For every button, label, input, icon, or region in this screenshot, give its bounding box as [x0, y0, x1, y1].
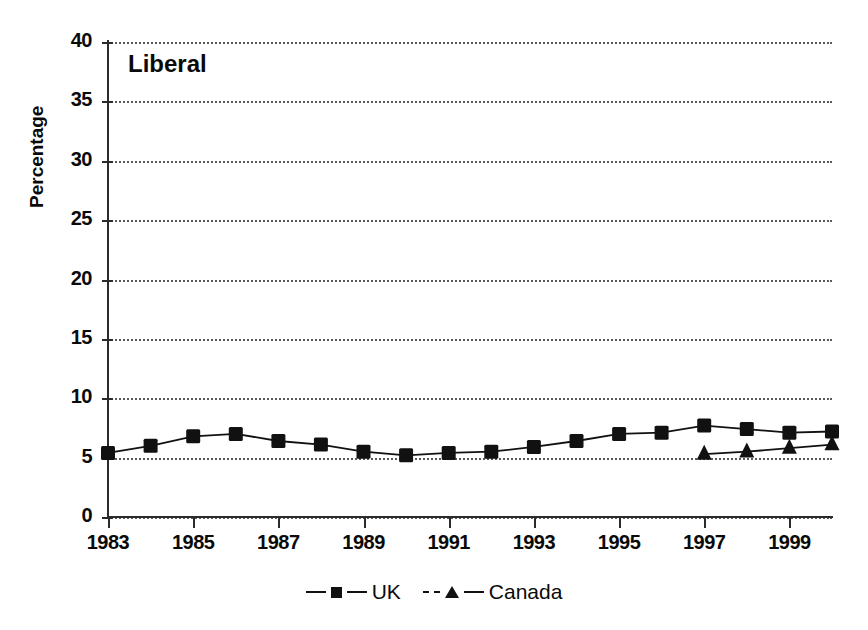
- legend-label-uk: UK: [372, 580, 401, 604]
- data-point-marker-triangle: [739, 442, 754, 457]
- data-point-marker-square: [271, 434, 285, 448]
- legend-entry-canada: Canada: [423, 580, 563, 604]
- legend-label-canada: Canada: [489, 580, 563, 604]
- data-point-marker-square: [357, 445, 371, 459]
- data-point-marker-square: [144, 439, 158, 453]
- data-point-marker-square: [484, 445, 498, 459]
- data-point-marker-square: [101, 446, 115, 460]
- series-layer: [0, 0, 868, 630]
- series-line-uk: [108, 426, 832, 456]
- data-point-marker-square: [186, 429, 200, 443]
- chart-legend: UK Canada: [0, 580, 868, 604]
- legend-line-uk: [306, 591, 326, 593]
- data-point-marker-square: [570, 434, 584, 448]
- data-point-marker-square: [655, 426, 669, 440]
- legend-line-uk-right: [347, 591, 367, 593]
- data-point-marker-square: [229, 427, 243, 441]
- data-point-marker-square: [314, 438, 328, 452]
- data-point-marker-triangle: [782, 439, 797, 454]
- data-point-marker-square: [399, 448, 413, 462]
- data-point-marker-square: [527, 440, 541, 454]
- square-marker-icon: [331, 587, 342, 598]
- legend-line-canada: [423, 591, 440, 593]
- legend-line-canada-right: [464, 591, 484, 593]
- data-point-marker-square: [612, 427, 626, 441]
- data-point-marker-triangle: [697, 445, 712, 460]
- series-line-canada: [704, 445, 832, 455]
- data-point-marker-square: [697, 419, 711, 433]
- data-point-marker-square: [442, 446, 456, 460]
- data-point-marker-square: [782, 426, 796, 440]
- legend-entry-uk: UK: [306, 580, 401, 604]
- chart-figure: 0510152025303540 19831985198719891991199…: [0, 0, 868, 630]
- data-point-marker-square: [740, 422, 754, 436]
- triangle-marker-icon: [445, 586, 459, 598]
